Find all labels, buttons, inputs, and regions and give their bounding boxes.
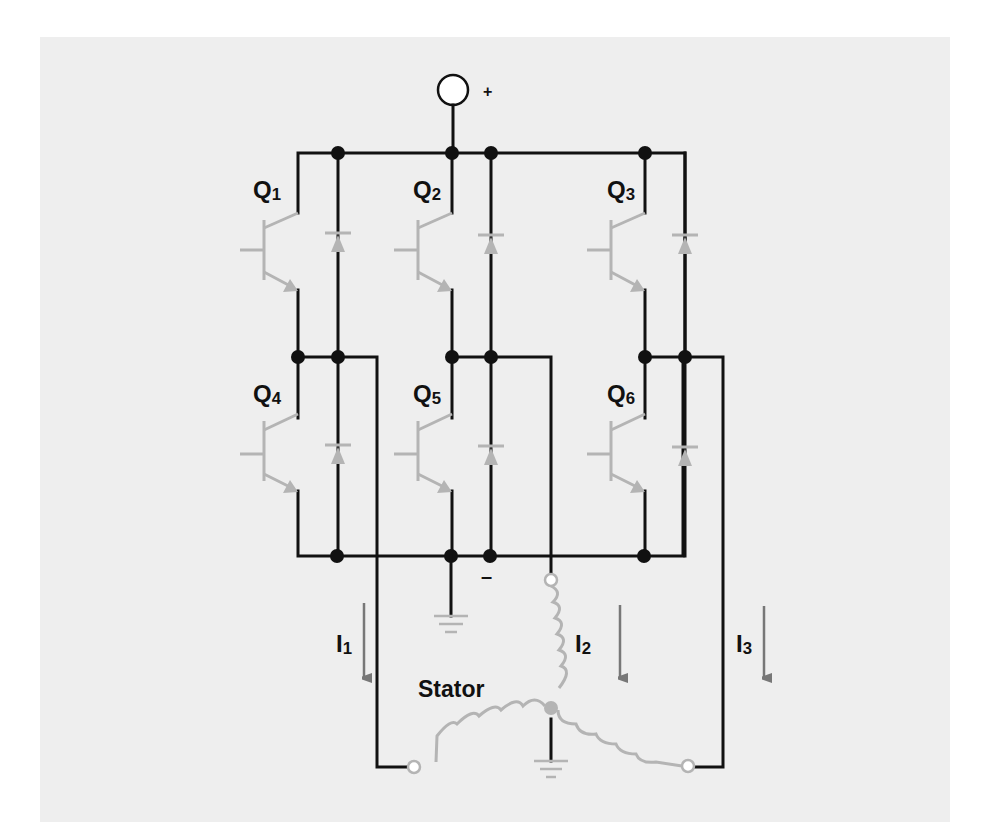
transistor-q2-symbol [394, 213, 452, 292]
negative-label: – [481, 565, 492, 587]
label-q2: Q2 [413, 176, 441, 204]
transistor-q3-symbol [587, 213, 645, 292]
label-q6: Q6 [607, 380, 635, 408]
winding-phase-3 [558, 710, 682, 766]
label-i2: I2 [575, 630, 591, 658]
transistor-labels: Q1 Q2 Q3 Q4 Q5 Q6 [253, 176, 635, 408]
phase-outputs [298, 357, 723, 767]
label-i1: I1 [336, 630, 352, 658]
diode-d4 [325, 445, 351, 464]
winding-phase-1 [436, 700, 545, 762]
star-point [544, 701, 558, 715]
diode-d5 [478, 446, 504, 465]
inverter-circuit: + – [0, 0, 982, 836]
diode-d6 [672, 447, 698, 466]
stator-ground-icon [534, 719, 568, 777]
label-q1: Q1 [253, 176, 281, 204]
label-i3: I3 [736, 630, 752, 658]
transistor-columns [298, 153, 645, 556]
label-q3: Q3 [607, 176, 635, 204]
positive-supply-terminal: + [438, 75, 492, 153]
diode-d2 [478, 235, 504, 254]
phase-2-output [452, 357, 551, 578]
positive-label: + [483, 83, 492, 100]
transistor-q1-symbol [240, 213, 298, 292]
diode-d1 [325, 233, 351, 252]
stator-label: Stator [418, 676, 485, 702]
label-q4: Q4 [253, 380, 282, 408]
phase-1-output [298, 357, 408, 767]
ground-icon [434, 556, 468, 632]
diode-columns [338, 153, 685, 556]
transistor-q6-symbol [587, 414, 645, 493]
transistor-q4-symbol [240, 414, 298, 493]
current-labels: I1 I2 I3 [336, 630, 752, 658]
transistor-q5-symbol [394, 414, 452, 493]
diode-symbols [325, 233, 698, 466]
diode-d3 [672, 235, 698, 254]
label-q5: Q5 [413, 380, 441, 408]
winding-phase-2 [551, 586, 567, 688]
